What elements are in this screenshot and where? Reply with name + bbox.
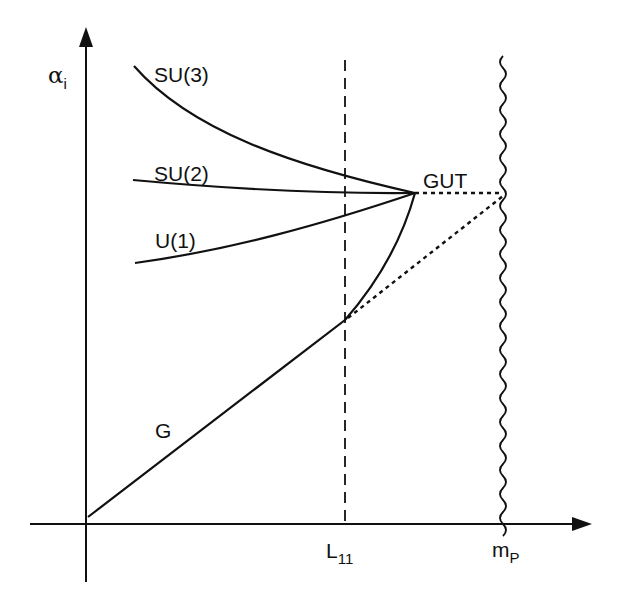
gut-label: GUT <box>423 170 467 191</box>
y-axis <box>79 27 93 582</box>
y-axis-label: αi <box>48 64 67 91</box>
unification-diagram <box>0 0 620 605</box>
su2-label: SU(2) <box>154 163 209 184</box>
y-axis-arrow-icon <box>79 27 93 47</box>
g-label: G <box>155 420 171 441</box>
mp-tick-label: mP <box>492 539 520 565</box>
planck-wavy-line <box>500 56 506 536</box>
l11-to-planck-dotted-line <box>348 196 503 318</box>
u1-curve <box>135 193 415 263</box>
su3-label: SU(3) <box>154 64 209 85</box>
l11-tick-label: L11 <box>326 540 353 566</box>
x-axis <box>30 517 592 531</box>
x-axis-arrow-icon <box>572 517 592 531</box>
u1-label: U(1) <box>155 230 196 251</box>
